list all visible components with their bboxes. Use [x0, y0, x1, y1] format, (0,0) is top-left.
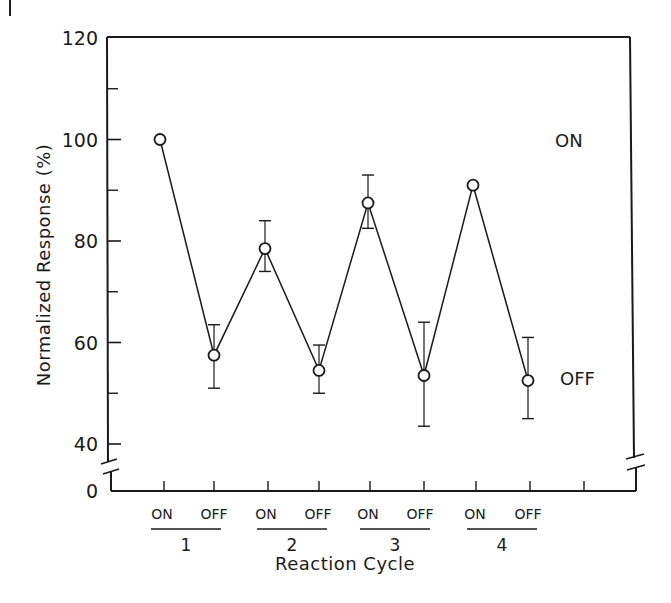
y-axis-title: Normalized Response (%): [33, 144, 54, 387]
x-category-label: OFF: [514, 506, 541, 522]
annotation-label: ON: [555, 130, 583, 151]
data-point-marker: [209, 350, 220, 361]
x-axis-title: Reaction Cycle: [275, 553, 415, 574]
y-tick-label: 120: [62, 27, 98, 49]
group-label: 4: [497, 535, 508, 555]
axis-break-marks: [101, 454, 645, 474]
plot-frame: [107, 37, 636, 491]
x-category-label: ON: [255, 506, 277, 522]
annotations: ONOFF: [555, 130, 595, 390]
y-tick-label: 100: [62, 129, 98, 151]
x-category-label: OFF: [200, 506, 227, 522]
data-point-marker: [523, 375, 534, 386]
x-category-label: ON: [151, 506, 173, 522]
data-point-marker: [314, 365, 325, 376]
y-tick-label: 80: [74, 230, 98, 252]
y-tick-label: 0: [86, 480, 98, 502]
series-line: [160, 140, 528, 381]
annotation-label: OFF: [560, 368, 595, 389]
y-tick-label: 40: [74, 433, 98, 455]
y-tick-label: 60: [74, 332, 98, 354]
x-axis: ONOFFONOFFONOFFONOFF1234: [151, 481, 584, 555]
x-category-label: ON: [357, 506, 379, 522]
group-label: 1: [181, 535, 192, 555]
data-point-marker: [363, 197, 374, 208]
x-category-label: ON: [464, 506, 486, 522]
chart: 1201008060400 ONOFFONOFFONOFFONOFF1234 O…: [0, 0, 671, 603]
group-label: 2: [287, 535, 298, 555]
data-point-marker: [468, 180, 479, 191]
x-category-label: OFF: [304, 506, 331, 522]
data-point-marker: [260, 243, 271, 254]
y-axis: 1201008060400: [62, 27, 121, 502]
group-label: 3: [390, 535, 401, 555]
data-series: [155, 134, 535, 426]
data-point-marker: [419, 370, 430, 381]
data-point-marker: [155, 134, 166, 145]
x-category-label: OFF: [406, 506, 433, 522]
